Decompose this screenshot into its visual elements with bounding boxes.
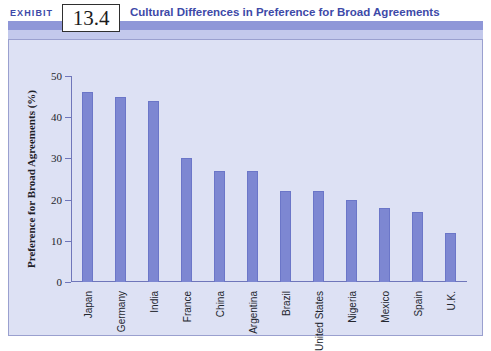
- exhibit-number: 13.4: [73, 8, 110, 29]
- bar: [148, 101, 159, 282]
- y-tick-mark: [65, 282, 71, 283]
- exhibit-title: Cultural Differences in Preference for B…: [130, 6, 440, 18]
- bar: [346, 200, 357, 282]
- bar: [280, 191, 291, 282]
- x-axis-label-text: Nigeria: [346, 291, 357, 323]
- plot-area: 01020304050 JapanGermanyIndiaFranceChina…: [71, 76, 467, 282]
- y-tick-label: 0: [57, 276, 63, 288]
- bar: [214, 171, 225, 282]
- y-axis-line: [71, 76, 72, 282]
- bar: [247, 171, 258, 282]
- x-axis-label-text: France: [181, 291, 192, 322]
- bar: [313, 191, 324, 282]
- exhibit-label: EXHIBIT: [10, 8, 53, 18]
- x-axis-line: [71, 281, 467, 282]
- bar: [412, 212, 423, 282]
- y-tick-mark: [65, 200, 71, 201]
- bar: [82, 92, 93, 282]
- x-axis-label-text: Mexico: [379, 291, 390, 323]
- y-axis-title-text: Preference for Broad Agreements (%): [25, 90, 37, 268]
- x-axis-label-text: Spain: [412, 291, 423, 317]
- y-tick-label: 50: [51, 70, 62, 82]
- exhibit-number-box: 13.4: [62, 4, 120, 32]
- bar: [181, 158, 192, 282]
- y-tick-mark: [65, 158, 71, 159]
- x-axis-label-text: Argentina: [247, 291, 258, 334]
- y-tick-label: 20: [51, 194, 62, 206]
- x-axis-label-text: India: [148, 291, 159, 313]
- x-axis-label-text: Brazil: [280, 291, 291, 316]
- x-axis-label-text: China: [214, 291, 225, 317]
- x-axis-label-text: U.K.: [445, 291, 456, 310]
- x-axis-label-text: United States: [313, 291, 324, 351]
- y-tick-mark: [65, 241, 71, 242]
- chart-frame: Preference for Broad Agreements (%) 0102…: [8, 39, 483, 336]
- bar: [115, 97, 126, 282]
- x-axis-label-text: Germany: [115, 291, 126, 332]
- y-axis-title: Preference for Broad Agreements (%): [23, 76, 39, 282]
- y-tick-label: 10: [51, 235, 62, 247]
- bar: [379, 208, 390, 282]
- y-tick-label: 40: [51, 111, 62, 123]
- y-tick-label: 30: [51, 152, 62, 164]
- y-tick-mark: [65, 117, 71, 118]
- x-axis-label-text: Japan: [82, 291, 93, 318]
- bar: [445, 233, 456, 282]
- y-tick-mark: [65, 76, 71, 77]
